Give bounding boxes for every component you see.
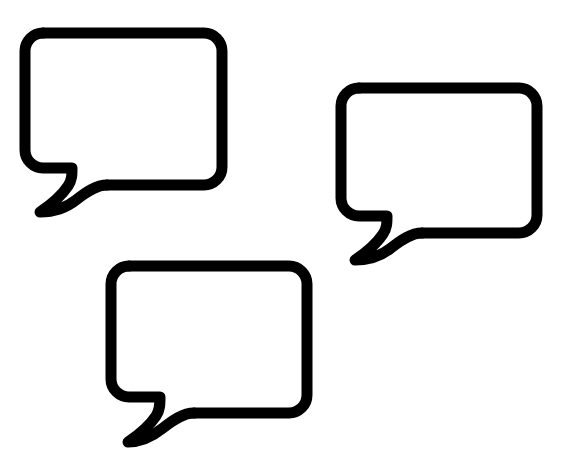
speech-bubble-3[interactable] (111, 266, 307, 442)
speech-bubble-1[interactable] (25, 33, 222, 212)
speech-bubble-3-tail (111, 266, 194, 442)
speech-bubbles-illustration: Speech Bubbles (0, 0, 564, 476)
speech-bubble-3-body (129, 266, 307, 413)
speech-bubble-1-tail (25, 33, 107, 212)
speech-bubble-1-body (43, 33, 222, 185)
artwork-canvas: Speech Bubbles (0, 0, 564, 476)
speech-bubble-2-tail (341, 88, 422, 260)
speech-bubble-2[interactable] (341, 88, 537, 260)
